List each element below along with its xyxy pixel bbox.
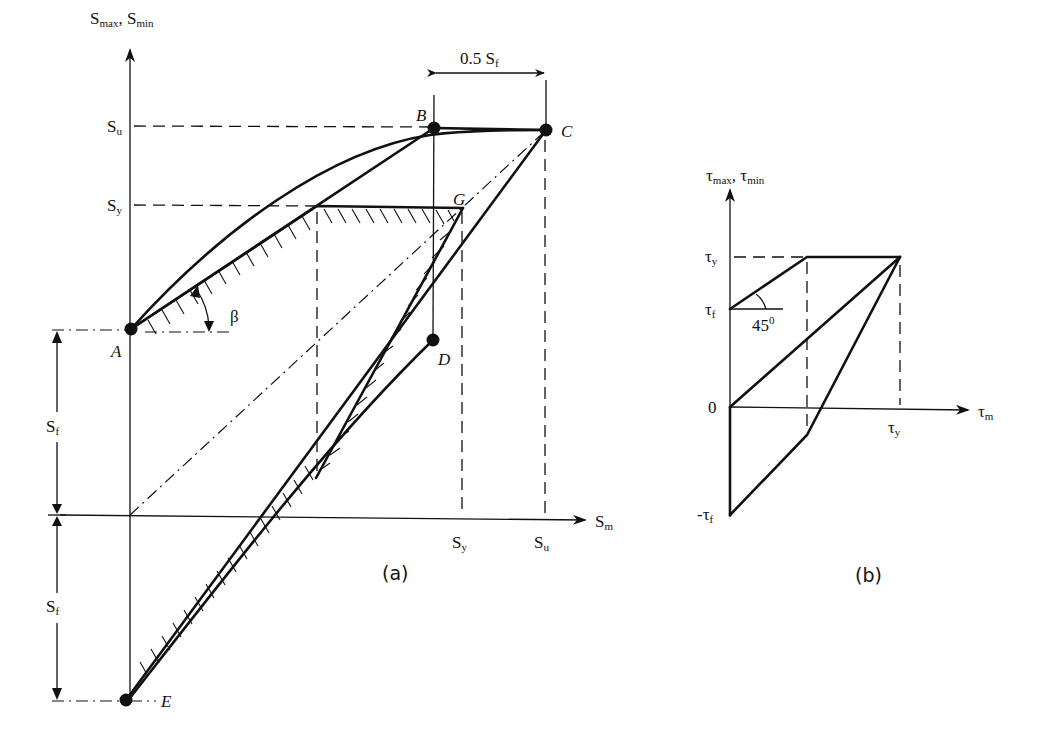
- reference-45-line: [130, 133, 543, 515]
- point-d-label: D: [437, 350, 451, 369]
- dimension-0.5sf-label: 0.5 Sf: [460, 49, 499, 69]
- line-b-c: [434, 128, 546, 130]
- line-e-c: [126, 130, 546, 700]
- hatching: [140, 209, 454, 676]
- x-tick-tau-y: τy: [888, 418, 901, 438]
- y-axis-label-b: τmax, τmin: [706, 166, 765, 186]
- x-axis-b: [730, 407, 968, 410]
- curve-e-d: [130, 340, 433, 698]
- point-d: [427, 334, 440, 347]
- y-tick-tau-f: τf: [705, 300, 716, 320]
- caption-b: (b): [855, 564, 882, 586]
- angle-45-label: 450: [752, 314, 775, 335]
- point-c-label: C: [561, 122, 573, 141]
- panel-a: Smax, Smin Sm Su Sy Sy Su 0.5 Sf: [42, 9, 613, 711]
- figure: Smax, Smin Sm Su Sy Sy Su 0.5 Sf: [0, 0, 1037, 749]
- x-tick-sy: Sy: [452, 533, 467, 553]
- x-axis-label-b: τm: [978, 402, 994, 422]
- y-tick-sy: Sy: [107, 196, 122, 216]
- tau-max-line: [730, 257, 900, 309]
- y-tick-tau-y: τy: [705, 247, 718, 267]
- panel-b: τmax, τmin τm τy τf 0 -τf τy 450 (b): [697, 166, 994, 586]
- sy-level-dash: [134, 205, 315, 206]
- x-tick-su: Su: [534, 533, 549, 553]
- point-a-label: A: [110, 342, 122, 361]
- beta-label: β: [230, 307, 239, 326]
- point-g-label: G: [453, 190, 465, 209]
- line-a-b: [131, 128, 434, 329]
- y-tick-su: Su: [107, 117, 122, 137]
- angle-45-arc: [756, 294, 766, 309]
- caption-a: (a): [382, 562, 408, 584]
- y-axis-label-a: Smax, Smin: [90, 9, 154, 29]
- x-axis-label-a: Sm: [595, 512, 613, 532]
- point-b: [428, 122, 441, 135]
- y-tick-zero: 0: [708, 398, 717, 417]
- point-a: [125, 323, 138, 336]
- point-b-label: B: [416, 106, 427, 125]
- x-axis-a: [60, 515, 585, 520]
- point-e-label: E: [160, 692, 172, 711]
- y-tick-neg-tau-f: -τf: [697, 505, 714, 525]
- curve-a-c: [131, 130, 546, 329]
- point-c: [540, 124, 553, 137]
- point-e: [120, 694, 133, 707]
- su-level-dash: [134, 126, 430, 127]
